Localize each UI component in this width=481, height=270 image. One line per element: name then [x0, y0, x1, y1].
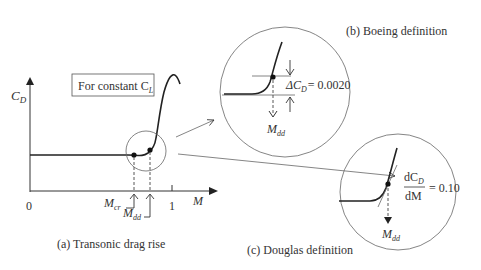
douglas-down-arrow-icon: [384, 217, 392, 224]
caption-a: (a) Transonic drag rise: [57, 237, 165, 251]
arrow-to-boeing-icon: [176, 120, 214, 137]
x-axis-label: M: [192, 194, 204, 208]
boeing-mdd-label: Mdd: [266, 122, 286, 138]
douglas-mdd-label: Mdd: [381, 227, 401, 243]
delta-top-arrow-icon: [286, 60, 294, 75]
delta-cd-label: ΔCD= 0.0020: [285, 78, 351, 94]
panel-c-douglas-definition: dCD dM = 0.10 Mdd (c) Douglas definition: [247, 134, 460, 257]
y-axis-arrow-icon: [26, 77, 34, 85]
transonic-drag-diagram: 0 1 M CD Mcr Mdd For constant CL (a) Tra…: [0, 0, 481, 270]
delta-bottom-arrow-icon: [286, 97, 294, 112]
tick-one-label: 1: [169, 199, 175, 213]
mdd-arrow-icon: [146, 194, 154, 217]
boeing-circle: [220, 27, 350, 157]
panel-a-transonic-drag-rise: 0 1 M CD Mcr Mdd For constant CL (a) Tra…: [11, 74, 218, 251]
caption-b: (b) Boeing definition: [346, 24, 447, 38]
note-box-text: For constant CL: [78, 79, 154, 95]
caption-c: (c) Douglas definition: [247, 243, 353, 257]
deriv-numerator: dCD: [404, 170, 424, 186]
mcr-label: Mcr: [103, 196, 122, 212]
x-axis-arrow-icon: [209, 187, 218, 195]
y-axis-label: CD: [11, 88, 27, 105]
mdd-point: [147, 147, 152, 152]
mcr-point: [131, 152, 136, 157]
boeing-mdd-point: [270, 74, 275, 79]
mdd-label: Mdd: [122, 206, 142, 222]
panel-b-boeing-definition: ΔCD= 0.0020 Mdd (b) Boeing definition: [220, 24, 447, 157]
zoom-circle: [126, 131, 166, 171]
deriv-value: = 0.10: [429, 181, 460, 195]
douglas-mdd-point: [385, 181, 390, 186]
origin-label: 0: [26, 199, 32, 213]
deriv-denominator: dM: [405, 189, 422, 203]
